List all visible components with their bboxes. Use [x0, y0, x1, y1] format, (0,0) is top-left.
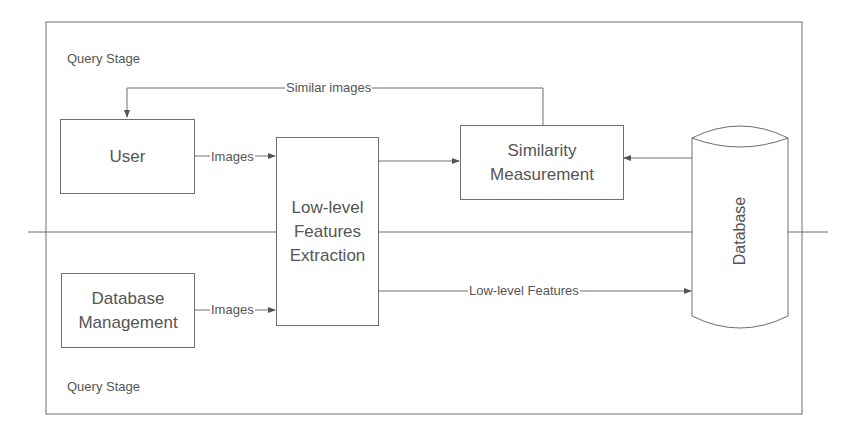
edge-label-similar-images: Similar images: [285, 81, 372, 95]
outer-frame: [46, 22, 802, 414]
node-user-label: User: [110, 145, 146, 169]
diagram-canvas: [0, 0, 852, 442]
edge-label-low-level-features: Low-level Features: [468, 284, 580, 298]
edge-label-user-images: Images: [210, 150, 255, 164]
stage-label-bottom: Query Stage: [67, 379, 140, 394]
node-database-label: Database: [731, 191, 749, 271]
node-similarity: Similarity Measurement: [460, 125, 624, 200]
node-similarity-label: Similarity Measurement: [490, 139, 594, 187]
stage-label-top: Query Stage: [67, 51, 140, 66]
node-user: User: [60, 119, 195, 194]
node-feature-extraction: Low-level Features Extraction: [276, 137, 379, 326]
node-db-management: Database Management: [61, 273, 195, 348]
edge-label-dbm-images: Images: [210, 303, 255, 317]
node-db-management-label: Database Management: [78, 287, 177, 335]
node-feature-extraction-label: Low-level Features Extraction: [290, 196, 366, 268]
